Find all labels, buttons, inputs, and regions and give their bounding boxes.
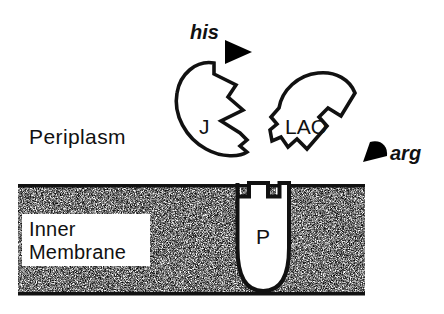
membrane-top-border — [18, 184, 365, 188]
periplasm-label: Periplasm — [29, 126, 126, 147]
lao-protein-label: LAO — [285, 116, 327, 137]
p-permease-label: P — [256, 226, 270, 247]
j-binding-protein — [176, 63, 247, 156]
membrane-bottom-border — [18, 292, 365, 296]
diagram-svg — [0, 0, 444, 314]
diagram-canvas: Periplasm Inner Membrane his arg J LAO P — [0, 0, 444, 314]
inner-membrane-label-line2: Membrane — [29, 242, 126, 262]
arg-ligand-marker — [363, 141, 387, 162]
arg-label: arg — [390, 143, 421, 163]
inner-membrane-label-line1: Inner — [29, 219, 76, 239]
his-label: his — [190, 22, 219, 42]
his-ligand-marker — [225, 40, 252, 64]
j-protein-label: J — [199, 116, 210, 137]
